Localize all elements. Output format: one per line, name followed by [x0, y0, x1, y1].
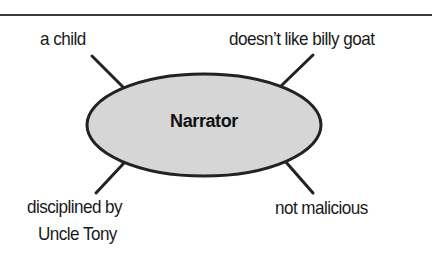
attribute-bottom-left-line-1: disciplined by	[27, 194, 122, 220]
attribute-top-left: a child	[40, 26, 86, 52]
connector-bottom-right	[285, 161, 313, 193]
attribute-bottom-right: not malicious	[275, 195, 368, 221]
connector-bottom-left	[96, 163, 124, 193]
center-label: Narrator	[154, 111, 254, 132]
attribute-top-right: doesn’t like billy goat	[229, 26, 374, 52]
connector-top-right	[281, 55, 313, 86]
connector-top-left	[92, 56, 125, 89]
attribute-bottom-left-line-2: Uncle Tony	[38, 221, 117, 247]
